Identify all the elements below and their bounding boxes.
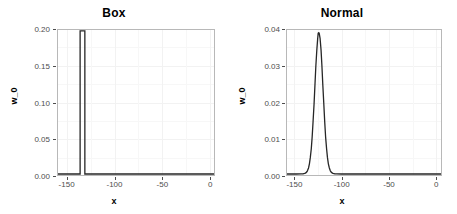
panel-title-box: Box xyxy=(0,5,228,21)
y-tick-label: 0.03 xyxy=(264,61,280,70)
y-tick-label: 0.00 xyxy=(264,172,280,181)
x-axis-label-box: x xyxy=(0,196,228,206)
plot-area-box xyxy=(57,29,215,176)
y-axis-label-normal: w_0 xyxy=(237,87,247,104)
x-tick-label: -50 xyxy=(383,180,395,189)
box-series xyxy=(58,30,214,175)
y-tick-label: 0.01 xyxy=(264,135,280,144)
y-tick-label: 0.00 xyxy=(34,172,50,181)
x-tick-label: 0 xyxy=(434,180,438,189)
x-tick-label: -150 xyxy=(59,180,75,189)
y-tick-label: 0.20 xyxy=(34,25,50,34)
y-tick-label: 0.05 xyxy=(34,135,50,144)
panel-title-normal: Normal xyxy=(228,5,456,21)
y-tick-label: 0.02 xyxy=(264,98,280,107)
panel-box: Box w_0 0.00 0.05 0.10 0.15 0.20 -150 -1… xyxy=(0,0,228,214)
plot-area-normal xyxy=(286,29,442,176)
x-axis-label-normal: x xyxy=(228,196,456,206)
y-tick-label: 0.10 xyxy=(34,98,50,107)
normal-series xyxy=(287,30,441,175)
y-tick-label: 0.04 xyxy=(264,25,280,34)
x-tick-label: -150 xyxy=(286,180,302,189)
x-tick-label: 0 xyxy=(208,180,212,189)
y-tick-label: 0.15 xyxy=(34,61,50,70)
x-tick-label: -100 xyxy=(334,180,350,189)
y-axis-label-box: w_0 xyxy=(9,87,19,104)
figure-container: Box w_0 0.00 0.05 0.10 0.15 0.20 -150 -1… xyxy=(0,0,457,214)
panel-normal: Normal w_0 0.00 0.01 0.02 0.03 0.04 -150… xyxy=(228,0,456,214)
x-tick-label: -50 xyxy=(157,180,169,189)
x-tick-label: -100 xyxy=(106,180,122,189)
